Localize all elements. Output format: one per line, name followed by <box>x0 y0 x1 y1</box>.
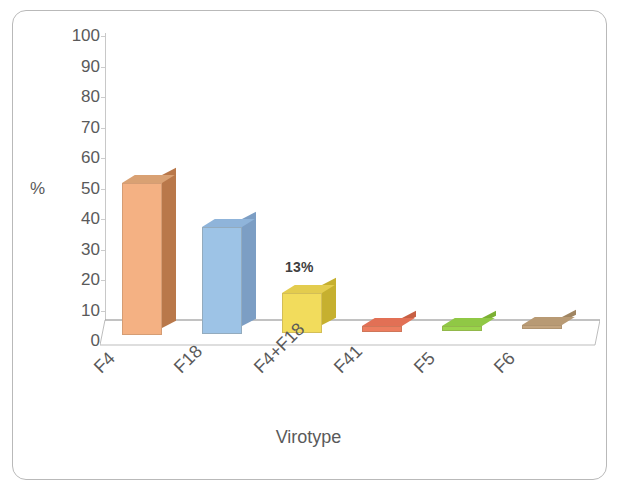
x-axis-tick-label-f4-plus-f18: F4+F18 <box>250 319 309 378</box>
x-axis-tick-label-f5: F5 <box>410 348 440 378</box>
x-axis-title: Virotype <box>0 427 617 448</box>
x-axis-tick-label-f18: F18 <box>170 341 207 378</box>
x-axis-tick-label-f6: F6 <box>490 348 520 378</box>
x-axis-tick-label-f4: F4 <box>90 348 120 378</box>
x-axis-tick-label-f41: F41 <box>330 341 367 378</box>
